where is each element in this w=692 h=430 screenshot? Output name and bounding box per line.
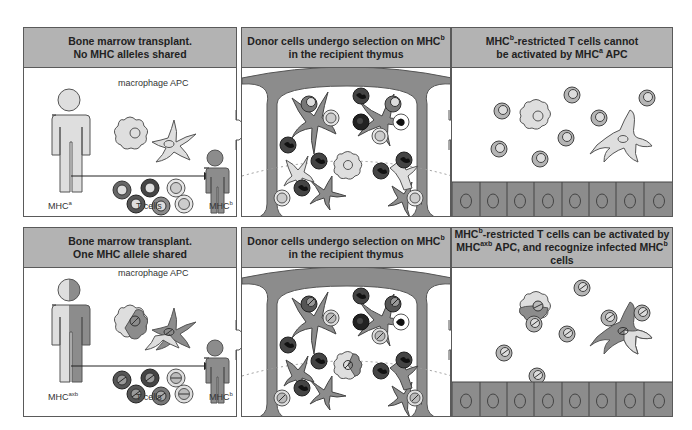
macrophage-label: macrophage — [118, 268, 168, 278]
apc-icon — [145, 308, 196, 350]
donor-person-icon — [52, 89, 90, 192]
panel-body: macrophage APC MHCa T cells MHCb — [24, 68, 236, 216]
panel-body — [242, 68, 450, 216]
macrophage-icon — [114, 117, 147, 149]
recipient-mhc-label: MHCb — [209, 201, 233, 211]
t-cells-label: T cells — [136, 392, 162, 402]
macrophage-icon — [520, 100, 551, 130]
header-line-2: in the recipient thymus — [289, 48, 404, 61]
macrophage-icon — [114, 305, 147, 339]
donor-person-icon — [52, 279, 90, 382]
panel-activation-outcome: MHCb-restricted T cells cannot be activa… — [451, 27, 673, 217]
epithelial-cells-row — [452, 182, 673, 217]
panel-thymic-selection: Donor cells undergo selection on MHCb in… — [241, 227, 451, 417]
panel-activation-outcome: MHCb-restricted T cells can be activated… — [451, 227, 673, 417]
header-line-2: No MHC alleles shared — [73, 48, 186, 61]
panel-body — [242, 268, 450, 416]
header-line-1: Donor cells undergo selection on MHCb — [247, 35, 444, 48]
panel-body: macrophage APC MHCaxb T cells MHCb — [24, 268, 236, 416]
panel-header: Donor cells undergo selection on MHCb in… — [242, 228, 450, 268]
header-line-2: One MHC allele shared — [73, 248, 187, 261]
panel-header: MHCb-restricted T cells can be activated… — [452, 228, 672, 268]
donor-mhc-label: MHCa — [48, 201, 72, 211]
t-cells-label: T cells — [136, 201, 162, 211]
donor-mhc-label: MHCaxb — [48, 392, 78, 402]
macrophage-icon — [334, 152, 362, 180]
apc-icon — [152, 120, 196, 162]
panel-body — [452, 68, 672, 216]
header-line-1: Bone marrow transplant. — [68, 235, 192, 248]
panel-one-mhc-shared-transplant: Bone marrow transplant. One MHC allele s… — [23, 227, 237, 417]
panel-header: MHCb-restricted T cells cannot be activa… — [452, 28, 672, 68]
header-line-2: in the recipient thymus — [289, 248, 404, 261]
macrophage-label: macrophage — [118, 78, 168, 88]
panel-header: Bone marrow transplant. No MHC alleles s… — [24, 28, 236, 68]
recipient-mhc-label: MHCb — [209, 392, 233, 402]
panel-header: Donor cells undergo selection on MHCb in… — [242, 28, 450, 68]
panel-no-mhc-shared-transplant: Bone marrow transplant. No MHC alleles s… — [23, 27, 237, 217]
header-line-2: MHCaxb APC, and recognize infected MHCb … — [452, 241, 672, 267]
panel-body — [452, 268, 672, 416]
apc-label: APC — [170, 78, 189, 88]
header-line-2: be activated by MHCa APC — [496, 48, 627, 61]
header-line-1: Donor cells undergo selection on MHCb — [247, 235, 444, 248]
epithelial-cells-row — [452, 382, 673, 417]
panel-header: Bone marrow transplant. One MHC allele s… — [24, 228, 236, 268]
header-line-1: MHCb-restricted T cells cannot — [486, 35, 639, 48]
header-line-1: Bone marrow transplant. — [68, 35, 192, 48]
apc-label: APC — [170, 268, 189, 278]
panel-thymic-selection: Donor cells undergo selection on MHCb in… — [241, 27, 451, 217]
macrophage-icon — [334, 352, 362, 380]
